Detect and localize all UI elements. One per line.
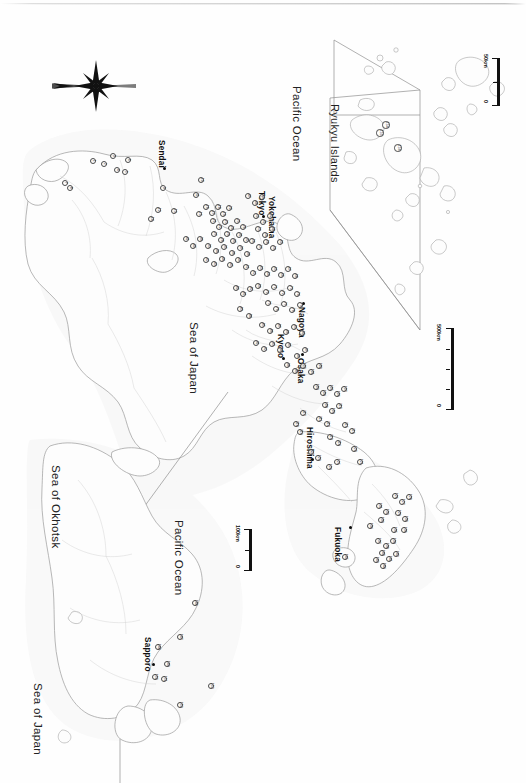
site-marker-number: 28 <box>219 238 223 242</box>
site-marker-number: 1 <box>91 160 95 162</box>
site-marker-number: 20 <box>227 206 231 210</box>
site-marker: 152 <box>208 683 215 690</box>
scale-ryukyu-max: 50km <box>483 54 489 68</box>
scale-hokkaido-max: 100km <box>235 525 241 542</box>
site-marker-number: 109 <box>330 408 334 414</box>
site-marker-number: 84 <box>247 314 251 318</box>
site-marker-number: 42 <box>204 258 208 262</box>
site-marker-number: 45 <box>228 263 232 267</box>
site-marker-number: 144 <box>381 563 385 569</box>
site-marker-number: 127 <box>400 499 404 505</box>
site-marker-number: 116 <box>350 428 354 434</box>
site-marker: 105 <box>327 385 334 392</box>
city-label-sendai: Sendai <box>157 140 166 168</box>
site-marker-number: 79 <box>298 303 302 307</box>
site-marker-number: 66 <box>279 273 283 277</box>
site-marker-number: 68 <box>293 274 297 278</box>
site-marker-number: 155 <box>378 130 382 136</box>
inset-title-ryukyu-islands: Ryukyu Islands <box>329 104 341 183</box>
site-marker-number: 51 <box>261 220 265 224</box>
site-marker-number: 14 <box>149 217 153 221</box>
site-marker-number: 156 <box>396 145 400 151</box>
site-marker: 156 <box>394 144 401 151</box>
site-marker-number: 39 <box>198 237 202 241</box>
site-marker-number: 38 <box>245 252 249 256</box>
site-marker-number: 114 <box>336 440 340 446</box>
site-marker-number: 111 <box>317 416 321 421</box>
site-marker-number: 150 <box>153 674 157 680</box>
city-dot-sapporo <box>152 663 155 666</box>
site-marker-number: 146 <box>193 600 197 606</box>
site-marker-number: 91 <box>254 341 258 345</box>
city-dot-fukuoka <box>349 526 352 529</box>
site-marker: 103 <box>313 384 320 391</box>
site-marker-number: 137 <box>376 538 380 544</box>
site-marker-number: 117 <box>301 410 305 416</box>
site-marker-number: 31 <box>237 233 241 237</box>
site-marker-number: 119 <box>298 429 302 435</box>
site-marker-number: 52 <box>268 214 272 218</box>
site-marker-number: 21 <box>211 219 215 223</box>
site-marker: 122 <box>308 449 315 456</box>
site-marker-number: 64 <box>265 272 269 276</box>
site-marker-number: 143 <box>374 557 378 563</box>
site-marker: 137 <box>375 538 382 545</box>
site-marker: 104 <box>320 390 327 397</box>
site-marker-number: 93 <box>270 342 274 346</box>
site-marker: 130 <box>402 516 409 523</box>
site-marker: 129 <box>395 510 402 517</box>
site-marker: 108 <box>322 402 329 409</box>
site-marker-number: 85 <box>260 323 264 327</box>
site-marker-number: 55 <box>270 227 274 231</box>
site-marker-number: 43 <box>212 262 216 266</box>
site-marker-number: 110 <box>337 403 341 409</box>
site-marker: 138 <box>383 543 390 550</box>
site-marker: 102 <box>316 363 323 370</box>
site-marker: 107 <box>341 386 348 393</box>
site-marker-number: 86 <box>268 329 272 333</box>
site-marker: 139 <box>390 538 397 545</box>
site-marker-number: 4 <box>115 169 119 171</box>
site-marker-number: 7 <box>63 182 67 184</box>
site-marker-number: 13 <box>172 209 176 213</box>
site-marker: 131 <box>376 503 383 510</box>
site-marker: 125 <box>334 459 341 466</box>
site-marker-number: 8 <box>68 187 72 189</box>
site-marker-number: 73 <box>288 286 292 290</box>
site-marker-number: 78 <box>290 308 294 312</box>
site-marker-number: 48 <box>253 201 257 205</box>
site-marker-number: 90 <box>300 331 304 335</box>
site-marker-number: 44 <box>220 257 224 261</box>
scale-main-min: 0 <box>436 404 442 407</box>
site-marker-number: 133 <box>379 517 383 523</box>
site-marker-number: 145 <box>343 554 347 560</box>
site-marker-number: 3 <box>111 155 115 157</box>
site-marker-number: 154 <box>384 122 388 128</box>
site-marker-number: 149 <box>165 661 169 667</box>
site-marker-number: 33 <box>206 244 210 248</box>
site-marker-number: 94 <box>278 348 282 352</box>
site-marker-number: 108 <box>323 402 327 408</box>
site-marker: 150 <box>152 674 159 681</box>
site-marker-number: 36 <box>230 251 234 255</box>
scale-hokkaido-min: 0 <box>235 565 241 568</box>
site-marker-number: 9 <box>161 187 165 189</box>
site-marker-number: 19 <box>221 212 225 216</box>
site-marker-number: 74 <box>295 292 299 296</box>
site-marker: 141 <box>386 556 393 563</box>
site-marker-number: 135 <box>392 527 396 533</box>
site-marker-number: 99 <box>293 369 297 373</box>
site-marker-number: 11 <box>194 193 198 197</box>
site-marker: 134 <box>367 523 374 530</box>
site-marker-number: 81 <box>241 292 245 296</box>
site-marker: 154 <box>382 121 389 128</box>
site-marker-number: 15 <box>197 212 201 216</box>
site-marker-number: 136 <box>402 527 406 533</box>
site-marker-number: 140 <box>380 550 384 556</box>
site-marker: 140 <box>379 550 386 557</box>
site-marker-number: 35 <box>222 245 226 249</box>
site-marker-number: 50 <box>254 214 258 218</box>
city-label-sapporo: Sapporo <box>143 637 152 672</box>
site-marker-number: 126 <box>393 493 397 499</box>
site-marker: 144 <box>380 563 387 570</box>
